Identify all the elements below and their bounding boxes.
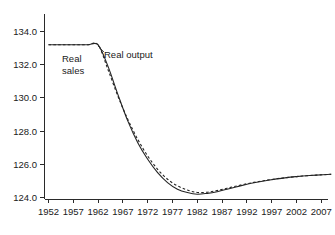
y-axis-ticks <box>40 32 45 198</box>
y-tick-label: 130.0 <box>13 92 37 103</box>
y-tick-label: 126.0 <box>13 159 37 170</box>
y-tick-label: 124.0 <box>13 192 37 203</box>
x-axis-tick-labels: 1952 1957 1962 1967 1972 1977 1982 1987 … <box>38 206 332 217</box>
series-real-sales <box>49 43 332 193</box>
real-output-label: Real output <box>104 49 153 60</box>
x-tick-label: 1992 <box>236 206 257 217</box>
y-axis-tick-labels: 124.0 126.0 128.0 130.0 132.0 134.0 <box>13 26 37 203</box>
x-tick-label: 1982 <box>187 206 208 217</box>
series-annotation-real-sales: Real sales <box>62 53 84 76</box>
y-tick-label: 134.0 <box>13 26 37 37</box>
x-tick-label: 1962 <box>88 206 109 217</box>
x-tick-label: 1957 <box>63 206 84 217</box>
x-tick-label: 1997 <box>261 206 282 217</box>
x-tick-label: 2007 <box>311 206 332 217</box>
x-tick-label: 1967 <box>112 206 133 217</box>
x-tick-label: 2002 <box>286 206 307 217</box>
x-tick-label: 1987 <box>212 206 233 217</box>
x-axis-ticks <box>49 200 322 204</box>
series-real-output <box>49 43 332 194</box>
x-tick-label: 1952 <box>38 206 59 217</box>
y-tick-label: 132.0 <box>13 59 37 70</box>
x-tick-label: 1977 <box>162 206 183 217</box>
real-sales-label-line1: Real <box>62 53 82 64</box>
line-chart: 124.0 126.0 128.0 130.0 132.0 134.0 1952… <box>0 0 335 235</box>
y-tick-label: 128.0 <box>13 126 37 137</box>
chart-container: 124.0 126.0 128.0 130.0 132.0 134.0 1952… <box>0 0 335 235</box>
x-tick-label: 1972 <box>137 206 158 217</box>
real-sales-label-line2: sales <box>62 65 84 76</box>
